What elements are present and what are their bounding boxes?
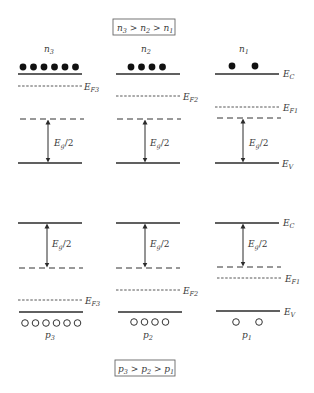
top-title-box: n3 > n2 > n1 bbox=[113, 19, 175, 35]
svg-text:p3 > p2 > p1: p3 > p2 > p1 bbox=[118, 364, 174, 376]
svg-text:n2: n2 bbox=[141, 44, 151, 56]
svg-text:n3 > n2 > n1: n3 > n2 > n1 bbox=[117, 23, 173, 35]
bottom-gap-arrows bbox=[47, 226, 243, 265]
top-gap-arrows bbox=[48, 121, 243, 160]
bottom-valence-band bbox=[19, 311, 280, 312]
bottom-intrinsic-levels bbox=[19, 267, 281, 268]
bottom-ef2-label: EF2 bbox=[182, 286, 198, 298]
top-fermi-levels bbox=[18, 86, 279, 107]
top-gap-labels: Eg/2 Eg/2 Eg/2 bbox=[53, 138, 269, 150]
ef1-label: EF1 bbox=[282, 103, 298, 115]
bottom-ef3-label: EF3 bbox=[84, 296, 100, 308]
svg-text:n3: n3 bbox=[44, 44, 54, 56]
holes bbox=[22, 319, 263, 327]
bottom-carrier-labels: p3 p2 p1 bbox=[45, 330, 252, 342]
svg-text:p2: p2 bbox=[143, 330, 153, 342]
top-ev-label: EV bbox=[281, 159, 295, 171]
svg-text:p1: p1 bbox=[242, 330, 252, 342]
bottom-gap-labels: Eg/2 Eg/2 Eg/2 bbox=[51, 239, 268, 251]
electrons bbox=[20, 63, 259, 71]
bottom-title-box: p3 > p2 > p1 bbox=[115, 360, 175, 376]
svg-text:Eg/2: Eg/2 bbox=[247, 239, 268, 251]
svg-text:Eg/2: Eg/2 bbox=[248, 138, 269, 150]
bottom-ev-label: EV bbox=[283, 307, 297, 319]
top-ec-label: EC bbox=[282, 69, 295, 81]
svg-text:Eg/2: Eg/2 bbox=[51, 239, 72, 251]
svg-text:Eg/2: Eg/2 bbox=[53, 138, 74, 150]
svg-text:n1: n1 bbox=[239, 44, 249, 56]
bottom-ec-label: EC bbox=[282, 218, 295, 230]
top-carrier-labels: n3 n2 n1 bbox=[44, 44, 249, 56]
svg-text:Eg/2: Eg/2 bbox=[149, 239, 170, 251]
band-diagram: n3 > n2 > n1 n3 n2 n1 EC EF3 EF2 EF1 bbox=[0, 0, 314, 393]
svg-text:Eg/2: Eg/2 bbox=[149, 138, 170, 150]
bottom-ef1-label: EF1 bbox=[284, 274, 300, 286]
bottom-fermi-levels bbox=[18, 278, 281, 300]
top-intrinsic-levels bbox=[20, 118, 281, 119]
ef2-label: EF2 bbox=[182, 92, 198, 104]
ef3-label: EF3 bbox=[83, 82, 99, 94]
svg-text:p3: p3 bbox=[45, 330, 55, 342]
